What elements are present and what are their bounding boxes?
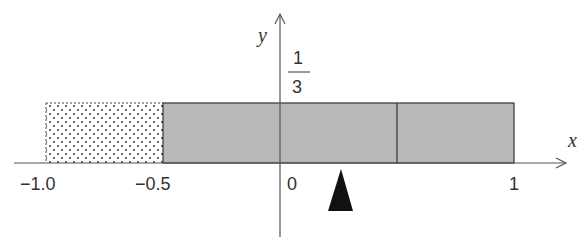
tick-label-neg-one: −1.0 <box>20 174 56 194</box>
pointer-triangle-icon <box>328 169 353 211</box>
fraction-denominator: 3 <box>292 77 302 97</box>
gray-region <box>163 103 514 163</box>
x-axis-label: x <box>567 129 577 151</box>
tick-label-neg-half: −0.5 <box>135 174 171 194</box>
y-axis-label: y <box>256 24 267 47</box>
y-value-fraction-label: 1 3 <box>288 48 310 97</box>
tick-label-one: 1 <box>509 174 519 194</box>
fraction-numerator: 1 <box>293 48 303 68</box>
tick-label-zero: 0 <box>287 174 297 194</box>
dotted-region <box>46 103 163 163</box>
diagram-canvas: y x 1 3 −1.0 −0.5 0 1 <box>0 0 583 243</box>
